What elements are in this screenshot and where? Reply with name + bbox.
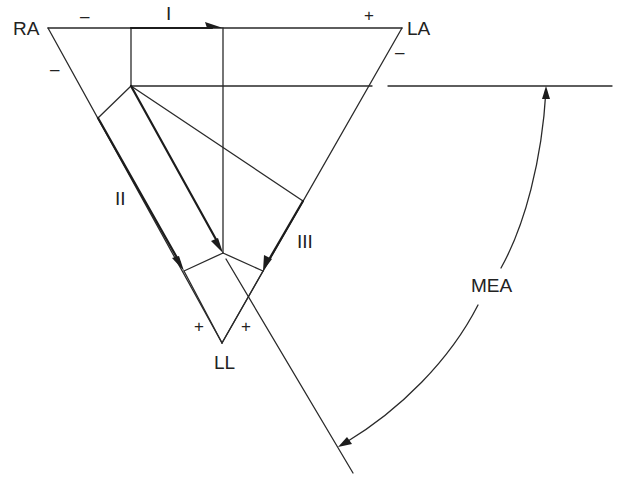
sign-lead-iii-positive: +: [241, 317, 251, 336]
diagram-svg: RA LA LL I II III – + – + – + MEA: [0, 0, 618, 492]
perpendicular-lead-iii: [223, 253, 263, 271]
lead-i-arrowhead: [205, 22, 223, 28]
mea-arc-upper: [501, 90, 546, 268]
origin-to-lead-ii: [98, 86, 131, 118]
lead-ii-arrowhead: [172, 256, 184, 271]
lead-ii-vector: [98, 118, 180, 263]
resultant-arrowhead: [211, 238, 223, 253]
mea-arc-arrowhead-top: [542, 86, 550, 99]
mea-arc-arrowhead-bottom: [338, 437, 352, 447]
mea-label: MEA: [471, 275, 513, 296]
sign-lead-ii-negative: –: [50, 60, 60, 79]
vertex-label-ll: LL: [214, 352, 235, 373]
mea-axis-line: [226, 259, 353, 473]
sign-lead-i-positive: +: [364, 6, 374, 25]
origin-to-lead-iii: [131, 86, 303, 201]
sign-lead-iii-negative: –: [395, 43, 405, 62]
sign-lead-i-negative: –: [80, 7, 90, 26]
perpendicular-lead-ii: [184, 253, 223, 271]
resultant-vector: [131, 86, 218, 243]
lead-label-iii: III: [297, 231, 313, 252]
sign-lead-ii-positive: +: [194, 317, 204, 336]
einthoven-triangle: [48, 28, 402, 343]
einthoven-triangle-diagram: RA LA LL I II III – + – + – + MEA: [0, 0, 618, 492]
vertex-label-la: LA: [407, 18, 431, 39]
mea-arc-lower: [345, 305, 478, 443]
lead-label-i: I: [166, 3, 171, 24]
lead-label-ii: II: [115, 188, 126, 209]
vertex-label-ra: RA: [13, 18, 40, 39]
